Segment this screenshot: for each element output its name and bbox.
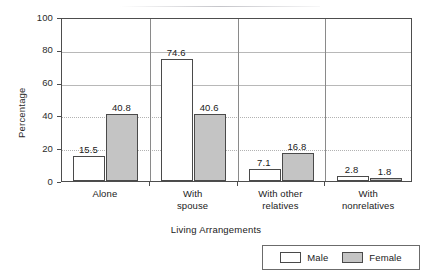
x-category-label-line: With	[148, 188, 238, 200]
x-tick-mark-1	[149, 182, 150, 186]
value-label-male-1: 74.6	[154, 47, 198, 58]
x-category-label-line: nonrelatives	[323, 200, 413, 212]
y-tick-label-80: 80	[23, 45, 53, 55]
bar-male-2	[249, 169, 281, 181]
chart-screenshot: Percentage 020406080100 15.574.67.12.840…	[0, 0, 432, 274]
x-tick-mark-3	[324, 182, 325, 186]
x-category-label-0: Alone	[60, 188, 150, 200]
y-tick-mark-0	[57, 182, 61, 183]
x-category-label-line: With other	[235, 188, 325, 200]
category-separator-1	[150, 19, 151, 181]
bar-male-1	[161, 59, 193, 181]
x-tick-mark-2	[237, 182, 238, 186]
y-tick-label-60: 60	[23, 78, 53, 88]
legend-swatch-female-icon	[342, 252, 363, 263]
bar-female-3	[370, 178, 402, 181]
x-category-label-line: spouse	[148, 200, 238, 212]
value-label-female-0: 40.8	[99, 102, 143, 113]
y-tick-label-20: 20	[23, 144, 53, 154]
value-label-male-0: 15.5	[66, 144, 110, 155]
y-tick-label-40: 40	[23, 111, 53, 121]
bar-male-3	[337, 176, 369, 181]
legend-label-female: Female	[369, 252, 401, 263]
legend-label-male: Male	[307, 252, 328, 263]
legend-item-female: Female	[342, 252, 401, 263]
category-separator-3	[325, 19, 326, 181]
bar-female-1	[194, 114, 226, 181]
gridline-80	[62, 52, 411, 53]
bar-female-2	[282, 153, 314, 181]
x-category-label-line: relatives	[235, 200, 325, 212]
value-label-male-2: 7.1	[242, 157, 286, 168]
y-tick-label-100: 100	[23, 13, 53, 23]
value-label-female-2: 16.8	[275, 141, 319, 152]
x-axis-title: Living Arrangements	[0, 224, 432, 235]
legend-swatch-male-icon	[280, 252, 301, 263]
gridline-60	[62, 85, 411, 86]
category-separator-2	[238, 19, 239, 181]
chart-legend: Male Female	[262, 245, 420, 270]
scan-artifact-line	[120, 6, 320, 7]
legend-item-male: Male	[280, 252, 328, 263]
value-label-female-3: 1.8	[363, 166, 407, 177]
y-tick-label-0: 0	[23, 177, 53, 187]
bar-male-0	[73, 156, 105, 181]
x-category-label-3: Withnonrelatives	[323, 188, 413, 211]
bar-female-0	[106, 114, 138, 181]
x-category-label-1: Withspouse	[148, 188, 238, 211]
value-label-female-1: 40.6	[187, 102, 231, 113]
x-category-label-line: With	[323, 188, 413, 200]
x-category-label-line: Alone	[60, 188, 150, 200]
plot-area	[61, 18, 412, 182]
x-category-label-2: With otherrelatives	[235, 188, 325, 211]
